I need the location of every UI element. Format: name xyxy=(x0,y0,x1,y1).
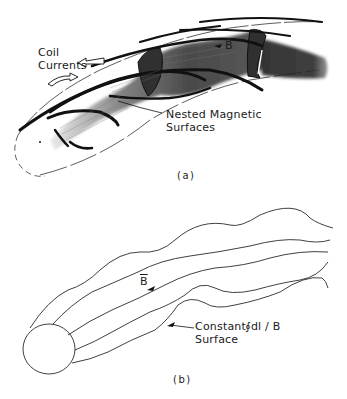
field-b-label-a: B xyxy=(225,39,233,52)
field-lines xyxy=(23,208,333,374)
surfaces-label: Surfaces xyxy=(166,121,215,134)
currents-label: Currents xyxy=(38,59,87,72)
nested-magnetic-label: Nested Magnetic xyxy=(166,108,262,121)
constant-label: Constant xyxy=(195,320,246,333)
panel-a-label: (a) xyxy=(177,170,195,181)
field-b-label-b: B xyxy=(140,275,148,288)
constant-surface-arrow-icon xyxy=(167,322,175,327)
cross-section-circle xyxy=(23,324,75,374)
coil-label: Coil xyxy=(38,46,59,59)
integral-expression: ∮dl / B xyxy=(245,320,280,333)
panel-b-label: (b) xyxy=(173,374,192,385)
stellarator-figure: Coil Currents B Nested Magnetic Surfaces… xyxy=(0,0,347,399)
surface-label: Surface xyxy=(195,333,238,346)
constant-surface-leader xyxy=(170,325,194,328)
